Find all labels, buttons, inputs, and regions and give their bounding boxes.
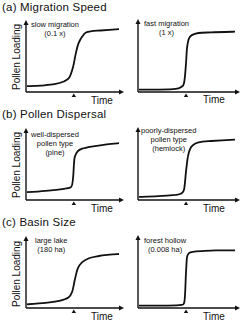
- x-axis-arrow-icon: [235, 306, 240, 311]
- figure-canvas: [0, 0, 247, 325]
- event-marker-icon: [72, 202, 76, 206]
- pollen-loading-curve: [139, 250, 235, 305]
- pollen-loading-curve: [27, 29, 119, 86]
- y-axis-arrow-icon: [136, 19, 141, 24]
- pollen-loading-curve: [139, 140, 235, 197]
- event-marker-icon: [184, 94, 188, 98]
- event-marker-icon: [184, 202, 188, 206]
- pollen-loading-curve: [139, 32, 235, 90]
- x-axis-arrow-icon: [119, 198, 124, 203]
- pollen-loading-curve: [27, 254, 119, 304]
- event-marker-icon: [72, 310, 76, 314]
- event-marker-icon: [72, 94, 76, 98]
- event-marker-icon: [184, 310, 188, 314]
- x-axis-arrow-icon: [235, 90, 240, 95]
- pollen-loading-curve: [27, 143, 119, 192]
- x-axis-arrow-icon: [119, 90, 124, 95]
- y-axis-arrow-icon: [136, 127, 141, 132]
- y-axis-arrow-icon: [24, 236, 29, 241]
- y-axis-arrow-icon: [24, 128, 29, 133]
- x-axis-arrow-icon: [235, 198, 240, 203]
- y-axis-arrow-icon: [24, 20, 29, 25]
- y-axis-arrow-icon: [136, 235, 141, 240]
- x-axis-arrow-icon: [119, 306, 124, 311]
